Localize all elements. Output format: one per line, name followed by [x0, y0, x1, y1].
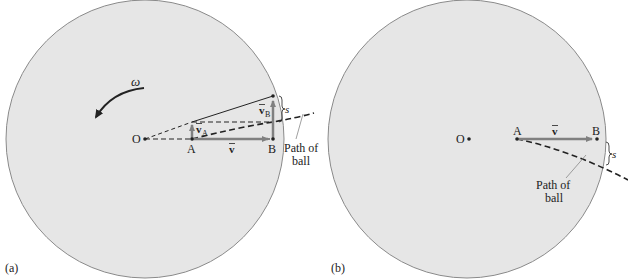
point-b-label-b: B [592, 124, 600, 138]
point-b-label-a: B [268, 142, 276, 156]
point-rim-a [271, 94, 275, 98]
svg-text:v: v [229, 143, 235, 155]
panel-a-caption: (a) [5, 261, 18, 275]
s-label-b: s [612, 148, 616, 160]
point-a-a [190, 137, 194, 141]
s-label-a: s [285, 103, 289, 115]
path-label-a-line2: ball [292, 154, 311, 168]
point-b-a [271, 137, 275, 141]
omega-label: ω [131, 74, 140, 89]
origin-label-b: O [456, 132, 465, 146]
path-label-a-line1: Path of [284, 141, 318, 155]
velocity-label-v-a: v [229, 143, 235, 155]
panel-b: O A B v s Path of ball (b) [328, 0, 628, 278]
panel-b-caption: (b) [331, 261, 345, 275]
point-a-label-b: A [513, 124, 522, 138]
svg-text:A: A [202, 129, 208, 138]
svg-text:B: B [265, 110, 270, 119]
panel-a: ω O A B v v A v B [5, 0, 318, 278]
path-label-b-line1: Path of [536, 178, 570, 192]
rotating-frame-figure: ω O A B v v A v B [0, 0, 628, 280]
origin-label-a: O [132, 132, 141, 146]
svg-text:v: v [552, 125, 558, 137]
point-a-label-a: A [187, 142, 196, 156]
path-label-b-line2: ball [545, 191, 564, 205]
velocity-label-v-b: v [552, 125, 558, 137]
point-o-a [143, 137, 147, 141]
point-o-b [467, 137, 471, 141]
